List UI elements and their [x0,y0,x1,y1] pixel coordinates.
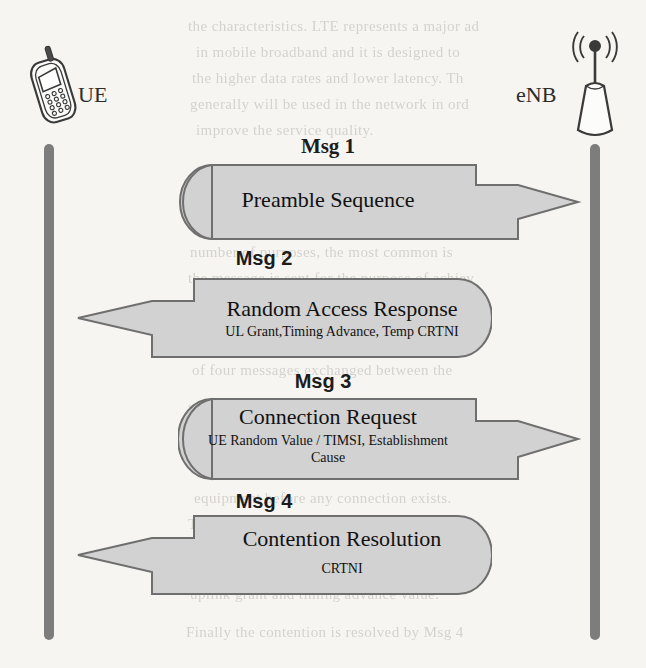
bleed-text-line: the characteristics. LTE represents a ma… [188,18,479,35]
base-station-antenna-icon [562,22,628,146]
diagram-canvas: the characteristics. LTE represents a ma… [0,0,646,668]
msg-3-label: Msg 3 [178,370,468,393]
ue-label: UE [78,82,107,108]
msg-2-arrow: Random Access Response UL Grant,Timing A… [72,276,492,360]
bleed-text-line: Finally the contention is resolved by Ms… [186,624,464,641]
bleed-text-line: in mobile broadband and it is designed t… [196,44,460,61]
msg-3-arrow: Connection Request UE Random Value / TIM… [178,396,584,482]
msg-1-label: Msg 1 [183,134,473,159]
enb-lifeline [590,144,600,640]
msg-1-arrow: Preamble Sequence [178,163,584,241]
bleed-text-line: the higher data rates and lower latency.… [192,70,464,87]
msg-4-label: Msg 4 [64,490,464,513]
ue-lifeline [44,144,54,640]
bleed-text-line: generally will be used in the network in… [190,96,469,113]
msg-2-label: Msg 2 [64,247,464,270]
enb-label: eNB [516,82,556,108]
msg-4-arrow: Contention Resolution CRTNI [72,513,492,597]
